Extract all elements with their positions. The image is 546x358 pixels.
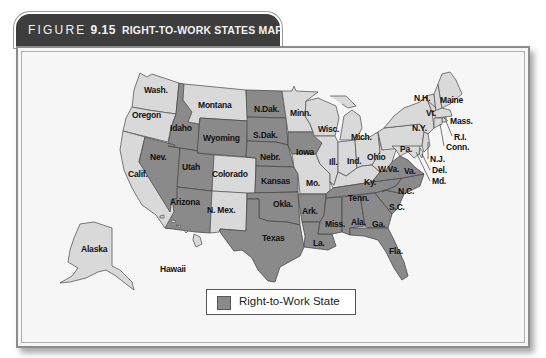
label-nh: N.H. — [414, 93, 430, 103]
label-ohio: Ohio — [367, 152, 386, 162]
label-ndak: N.Dak. — [254, 104, 279, 114]
state-rhode-island — [442, 117, 446, 122]
label-la: La. — [313, 238, 325, 248]
label-sdak: S.Dak. — [253, 130, 278, 140]
label-ky: Ky. — [364, 177, 376, 187]
label-del: Del. — [432, 165, 447, 175]
label-arizona: Arizona — [170, 197, 200, 207]
label-wash: Wash. — [144, 85, 168, 95]
label-okla: Okla. — [273, 199, 293, 209]
label-ala: Ala. — [351, 217, 366, 227]
label-alaska: Alaska — [81, 244, 108, 254]
label-vt: Vt. — [426, 108, 436, 118]
label-texas: Texas — [262, 233, 285, 243]
label-nc: N.C. — [398, 186, 414, 196]
label-mich: Mich. — [351, 132, 372, 142]
label-wyoming: Wyoming — [203, 133, 240, 143]
label-idaho: Idaho — [170, 123, 192, 133]
label-ill: Ill. — [329, 157, 338, 167]
label-fla: Fla. — [389, 246, 403, 256]
label-minn: Minn. — [290, 108, 311, 118]
label-calif: Calif. — [128, 169, 148, 179]
state-new-jersey — [422, 132, 430, 152]
state-connecticut — [434, 118, 442, 128]
label-utah: Utah — [182, 162, 200, 172]
label-nev: Nev. — [150, 152, 167, 162]
label-wva: W.Va. — [378, 164, 399, 174]
label-wisc: Wisc. — [318, 124, 339, 134]
label-md: Md. — [432, 176, 446, 186]
label-miss: Miss. — [325, 219, 345, 229]
label-colorado: Colorado — [212, 169, 248, 179]
label-ny: N.Y. — [412, 123, 427, 133]
label-montana: Montana — [198, 100, 232, 110]
label-pa: Pa. — [400, 144, 412, 154]
legend-swatch-right-to-work — [217, 296, 231, 310]
legend-label: Right-to-Work State — [239, 295, 340, 307]
label-ri: R.I. — [454, 132, 466, 142]
label-ind: Ind. — [347, 156, 361, 166]
label-iowa: Iowa — [296, 147, 315, 157]
map-legend: Right-to-Work State — [206, 289, 356, 315]
label-mass: Mass. — [450, 116, 473, 126]
label-nebr: Nebr. — [260, 152, 280, 162]
label-nmex: N. Mex. — [207, 205, 235, 215]
label-sc: S.C. — [389, 202, 405, 212]
label-ga: Ga. — [372, 219, 385, 229]
label-tenn: Tenn. — [348, 193, 369, 203]
label-ark: Ark. — [302, 206, 318, 216]
label-nj: N.J. — [430, 154, 445, 164]
label-mo: Mo. — [306, 178, 320, 188]
label-conn: Conn. — [446, 142, 469, 152]
label-kansas: Kansas — [261, 176, 291, 186]
state-alaska — [60, 222, 134, 290]
label-oregon: Oregon — [132, 110, 161, 120]
label-maine: Maine — [440, 95, 464, 105]
label-va: Va. — [404, 166, 416, 176]
label-hawaii: Hawaii — [160, 264, 186, 274]
